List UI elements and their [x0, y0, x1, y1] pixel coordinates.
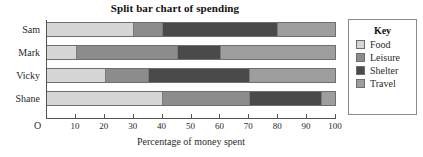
legend-swatch-icon — [356, 66, 365, 75]
x-tick-label: 80 — [264, 121, 290, 131]
bar-segment-leisure — [133, 23, 162, 36]
stacked-bar-row — [46, 68, 336, 83]
x-tick-mark — [248, 114, 249, 119]
bar-segment-shelter — [249, 92, 321, 105]
category-label: Vicky — [2, 70, 40, 81]
legend-item: Shelter — [356, 65, 416, 76]
bar-segment-travel — [321, 92, 335, 105]
bar-segment-travel — [277, 23, 335, 36]
x-tick-mark — [306, 114, 307, 119]
bar-segment-leisure — [76, 46, 177, 59]
bar-segment-travel — [249, 69, 335, 82]
x-tick-label: 30 — [120, 121, 146, 131]
legend-box: Key FoodLeisureShelterTravel — [348, 19, 417, 115]
x-tick-label: 10 — [62, 121, 88, 131]
x-tick-mark — [75, 114, 76, 119]
x-axis-title: Percentage of money spent — [46, 136, 336, 147]
bar-segment-food — [47, 92, 162, 105]
x-tick-mark — [277, 114, 278, 119]
x-tick-mark — [133, 114, 134, 119]
bar-segment-food — [47, 69, 105, 82]
legend-swatch-icon — [356, 40, 365, 49]
x-tick-label: 50 — [178, 121, 204, 131]
legend-item: Leisure — [356, 52, 416, 63]
stacked-bar-row — [46, 45, 336, 60]
x-tick-label: 40 — [149, 121, 175, 131]
legend-label: Food — [370, 39, 391, 50]
x-tick-label: 60 — [206, 121, 232, 131]
legend-label: Leisure — [370, 52, 400, 63]
legend-item: Food — [356, 39, 416, 50]
legend-label: Shelter — [370, 65, 398, 76]
stacked-bar-row — [46, 91, 336, 106]
x-tick-label: 20 — [91, 121, 117, 131]
bar-segment-food — [47, 23, 133, 36]
bar-segment-leisure — [162, 92, 248, 105]
x-tick-mark — [219, 114, 220, 119]
x-tick-label: 100 — [322, 121, 348, 131]
x-tick-mark — [104, 114, 105, 119]
category-label: Sam — [2, 24, 40, 35]
bar-segment-shelter — [148, 69, 249, 82]
bar-segment-food — [47, 46, 76, 59]
bar-segment-leisure — [105, 69, 148, 82]
bar-segment-shelter — [177, 46, 220, 59]
x-tick-mark — [335, 114, 336, 119]
x-tick-mark — [162, 114, 163, 119]
legend-items: FoodLeisureShelterTravel — [349, 39, 416, 89]
legend-item: Travel — [356, 78, 416, 89]
legend-title: Key — [349, 25, 416, 36]
category-label: Mark — [2, 47, 40, 58]
x-tick-label: 90 — [293, 121, 319, 131]
bar-segment-travel — [220, 46, 335, 59]
stacked-bar-row — [46, 22, 336, 37]
bar-segment-shelter — [162, 23, 277, 36]
x-tick-mark — [191, 114, 192, 119]
legend-label: Travel — [370, 78, 396, 89]
origin-label: O — [34, 120, 41, 131]
legend-swatch-icon — [356, 79, 365, 88]
legend-swatch-icon — [356, 53, 365, 62]
y-axis-line — [46, 20, 47, 119]
chart-title: Split bar chart of spending — [30, 2, 320, 14]
x-tick-label: 70 — [235, 121, 261, 131]
category-label: Shane — [2, 93, 40, 104]
